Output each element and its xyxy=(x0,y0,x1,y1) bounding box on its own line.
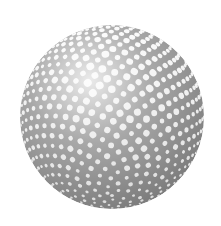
sphere-highlight xyxy=(20,25,204,209)
sphere-illustration xyxy=(0,0,221,226)
